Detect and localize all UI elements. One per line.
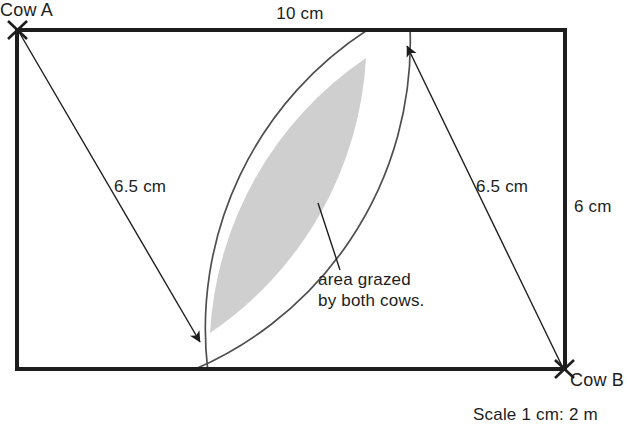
cow-a-label: Cow A xyxy=(0,0,53,20)
overlap-callout-line-1: area grazed xyxy=(318,270,411,289)
grazing-diagram: Cow A Cow B 10 cm 6 cm 6.5 cm 6.5 cm are… xyxy=(0,0,628,428)
scale-note: Scale 1 cm: 2 m xyxy=(473,405,598,424)
figure-svg: Cow A Cow B 10 cm 6 cm 6.5 cm 6.5 cm are… xyxy=(0,0,628,428)
cow-a-radius-label: 6.5 cm xyxy=(114,177,166,196)
field-width-label: 10 cm xyxy=(276,4,323,23)
cow-b-label: Cow B xyxy=(570,370,624,390)
cow-b-radius-label: 6.5 cm xyxy=(476,177,528,196)
overlap-callout-line-2: by both cows. xyxy=(318,291,425,310)
field-height-label: 6 cm xyxy=(574,197,612,216)
